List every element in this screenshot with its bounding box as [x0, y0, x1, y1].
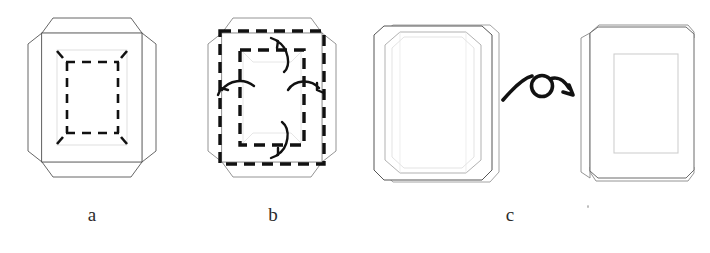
panel-a: a [0, 0, 190, 253]
panel-c-illustration [352, 0, 710, 253]
tray-front-view [374, 25, 499, 182]
panel-c: c [352, 0, 710, 253]
rotate-flip-arrow [503, 76, 573, 101]
carton-blank-outline-a [28, 18, 156, 177]
panel-a-label: a [72, 205, 112, 224]
panel-b-label: b [253, 205, 293, 224]
inner-octagon-guide-b [243, 52, 301, 143]
panel-b: b [185, 0, 360, 253]
tray-back-view [581, 25, 694, 181]
page-speck [587, 205, 589, 208]
figure-root: a [0, 0, 710, 253]
panel-c-label: c [490, 205, 530, 224]
